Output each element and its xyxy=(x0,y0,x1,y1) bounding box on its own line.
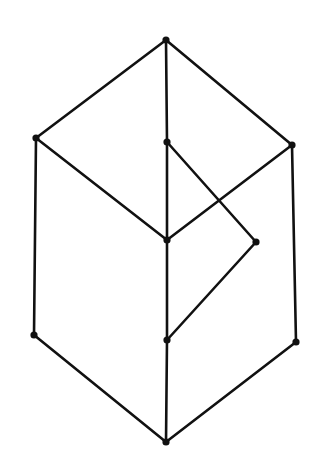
hasse-diagram xyxy=(0,0,316,468)
node-right-lower xyxy=(292,338,299,345)
node-top xyxy=(162,36,169,43)
node-left-lower xyxy=(30,331,37,338)
node-center-middle xyxy=(163,236,170,243)
node-right-middle xyxy=(252,238,259,245)
node-right-upper xyxy=(288,141,295,148)
node-left-upper xyxy=(32,134,39,141)
edge-center-lower-to-bottom xyxy=(166,340,167,442)
node-center-upper xyxy=(163,138,170,145)
edge-top-to-center-upper xyxy=(166,40,167,142)
node-center-lower xyxy=(163,336,170,343)
node-bottom xyxy=(162,438,169,445)
